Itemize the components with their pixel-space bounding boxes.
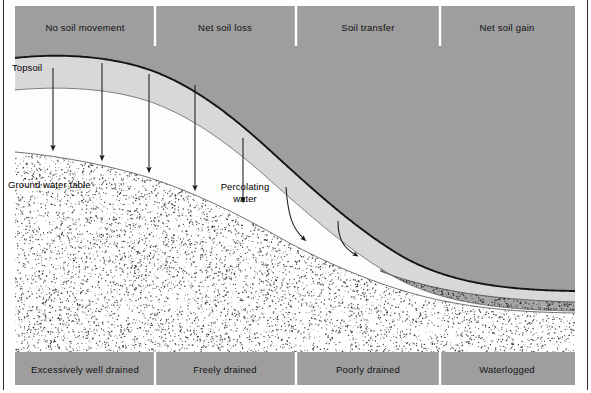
ground-water-table-label: Ground water table — [8, 179, 91, 190]
soil-catena-diagram: No soil movementNet soil lossSoil transf… — [0, 0, 591, 393]
percolating-water-line2-label: water — [233, 193, 257, 205]
soil-movement-band — [15, 6, 575, 46]
diagram-canvas — [0, 0, 591, 393]
topsoil-label: Topsoil — [12, 62, 42, 73]
percolating-water-line1-label: Percolating — [221, 181, 270, 193]
drainage-band — [15, 352, 575, 385]
